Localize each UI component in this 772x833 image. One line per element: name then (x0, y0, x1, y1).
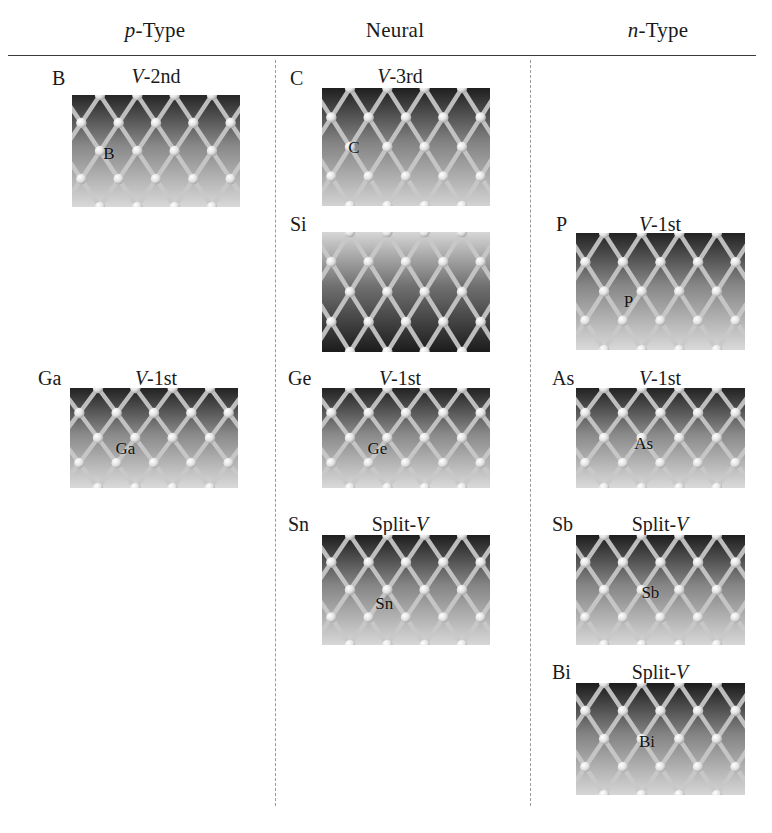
panel-Sn: SnSplit-VSn (0, 0, 772, 833)
lattice-image-Ge: Ge (322, 388, 490, 488)
lattice-image-Sn: Sn (322, 535, 490, 645)
vacancy-symbol: V (639, 367, 651, 389)
panel-symbol-Ga: Ga (38, 368, 61, 388)
vacancy-symbol: V (639, 213, 651, 235)
figure-root: p-TypeNeuraln-Type BV-2ndBCV-3rdCSiPV-1s… (0, 0, 772, 833)
panel-vacancy-title-C: V-3rd (377, 66, 423, 86)
panel-Ge: GeV-1stGe (0, 0, 772, 833)
dopant-annotation-Ga: Ga (116, 440, 136, 457)
vacancy-symbol: V (676, 513, 688, 535)
dopant-annotation-Bi: Bi (639, 733, 655, 750)
panel-Si: Si (0, 0, 772, 833)
vacancy-symbol: V (379, 367, 391, 389)
column-header-label: Neural (366, 18, 424, 42)
lattice-image-B: B (72, 95, 240, 207)
vacancy-title-suffix: -2nd (144, 65, 181, 87)
dopant-annotation-C: C (348, 139, 359, 156)
lattice-image-Si (322, 232, 490, 352)
panel-vacancy-title-Sn: Split-V (372, 514, 429, 534)
divider-right (530, 60, 531, 806)
vacancy-title-suffix: -1st (651, 367, 681, 389)
panel-B: BV-2ndB (0, 0, 772, 833)
panel-symbol-Ge: Ge (288, 368, 311, 388)
panel-C: CV-3rdC (0, 0, 772, 833)
panel-vacancy-title-Sb: Split-V (632, 514, 689, 534)
dopant-annotation-Sn: Sn (375, 595, 393, 612)
panel-symbol-Bi: Bi (552, 662, 571, 682)
panel-Sb: SbSplit-VSb (0, 0, 772, 833)
vacancy-title-suffix: -3rd (389, 65, 422, 87)
column-header-n-type: n-Type (628, 18, 688, 43)
panel-symbol-Si: Si (290, 214, 307, 234)
divider-left (275, 60, 276, 806)
column-header-p-type: p-Type (125, 18, 185, 43)
vacancy-symbol: V (135, 367, 147, 389)
vacancy-title-prefix: Split- (632, 661, 676, 683)
panel-symbol-Sn: Sn (288, 514, 309, 534)
panel-symbol-Sb: Sb (552, 514, 573, 534)
panel-symbol-C: C (290, 68, 303, 88)
vacancy-symbol: V (377, 65, 389, 87)
vacancy-title-suffix: -1st (147, 367, 177, 389)
vacancy-symbol: V (416, 513, 428, 535)
vacancy-symbol: V (132, 65, 144, 87)
column-header-italic-prefix: n (628, 18, 639, 42)
lattice-image-P: P (576, 233, 745, 350)
column-header-label: -Type (136, 18, 186, 42)
dopant-annotation-As: As (634, 435, 653, 452)
dopant-annotation-B: B (103, 145, 114, 162)
dopant-annotation-P: P (624, 292, 633, 309)
panel-As: AsV-1stAs (0, 0, 772, 833)
panel-vacancy-title-B: V-2nd (132, 66, 181, 86)
column-header-italic-prefix: p (125, 18, 136, 42)
panel-vacancy-title-As: V-1st (639, 368, 681, 388)
column-header-label: -Type (639, 18, 689, 42)
lattice-image-C: C (322, 88, 490, 206)
panel-Ga: GaV-1stGa (0, 0, 772, 833)
lattice-image-As: As (576, 388, 745, 488)
panel-symbol-P: P (556, 214, 567, 234)
vacancy-title-prefix: Split- (632, 513, 676, 535)
panel-Bi: BiSplit-VBi (0, 0, 772, 833)
panel-vacancy-title-P: V-1st (639, 214, 681, 234)
header-rule (8, 55, 756, 56)
lattice-image-Sb: Sb (576, 535, 745, 645)
vacancy-title-prefix: Split- (372, 513, 416, 535)
panel-symbol-As: As (552, 368, 574, 388)
dopant-annotation-Ge: Ge (368, 440, 388, 457)
vacancy-symbol: V (676, 661, 688, 683)
lattice-image-Ga: Ga (70, 388, 238, 488)
panel-symbol-B: B (52, 68, 65, 88)
panel-vacancy-title-Ge: V-1st (379, 368, 421, 388)
dopant-annotation-Sb: Sb (641, 584, 659, 601)
panel-vacancy-title-Bi: Split-V (632, 662, 689, 682)
panel-vacancy-title-Ga: V-1st (135, 368, 177, 388)
vacancy-title-suffix: -1st (651, 213, 681, 235)
column-header-neutral: Neural (366, 18, 424, 43)
lattice-image-Bi: Bi (576, 683, 745, 795)
vacancy-title-suffix: -1st (391, 367, 421, 389)
panel-P: PV-1stP (0, 0, 772, 833)
